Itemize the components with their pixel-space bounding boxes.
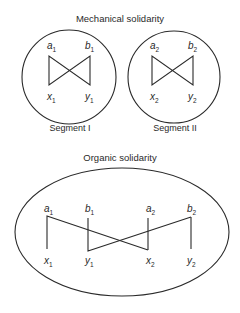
organic-node-b2: b2 bbox=[187, 203, 197, 216]
segment-2-bowtie bbox=[152, 56, 193, 85]
segment-1-bowtie bbox=[49, 56, 90, 85]
organic-node-x2: x2 bbox=[145, 255, 155, 268]
segment-1-node-x: x1 bbox=[46, 91, 56, 104]
link-b1-y1-b2 bbox=[88, 217, 191, 251]
organic-node-b1: b1 bbox=[85, 203, 95, 216]
segment-2-label: Segment II bbox=[153, 123, 197, 133]
solidarity-diagram: Mechanical solidarity a1 b1 x1 y1 Segmen… bbox=[0, 0, 240, 313]
segment-1-node-b: b1 bbox=[85, 40, 95, 53]
segment-2-node-b: b2 bbox=[188, 40, 198, 53]
segment-2: a2 b2 x2 y2 Segment II bbox=[128, 31, 220, 133]
segment-1-circle bbox=[22, 30, 116, 124]
organic-node-y2: y2 bbox=[186, 255, 196, 268]
segment-1-node-y: y1 bbox=[84, 91, 94, 104]
link-a1-x1-x2 bbox=[47, 216, 148, 250]
mechanical-title: Mechanical solidarity bbox=[76, 13, 164, 24]
segment-2-node-y: y2 bbox=[187, 91, 197, 104]
organic-node-y1: y1 bbox=[84, 255, 94, 268]
segment-2-node-x: x2 bbox=[149, 91, 159, 104]
segment-2-circle bbox=[128, 31, 220, 123]
segment-1-node-a: a1 bbox=[47, 40, 57, 53]
segment-1-label: Segment I bbox=[49, 123, 90, 133]
organic-title: Organic solidarity bbox=[83, 152, 157, 163]
organic-node-x1: x1 bbox=[43, 255, 53, 268]
organic-network: a1 b1 a2 b2 x1 y1 x2 y2 bbox=[15, 168, 229, 296]
segment-1: a1 b1 x1 y1 Segment I bbox=[22, 30, 116, 133]
organic-node-a2: a2 bbox=[146, 203, 156, 216]
organic-node-a1: a1 bbox=[44, 203, 54, 216]
segment-2-node-a: a2 bbox=[150, 40, 160, 53]
